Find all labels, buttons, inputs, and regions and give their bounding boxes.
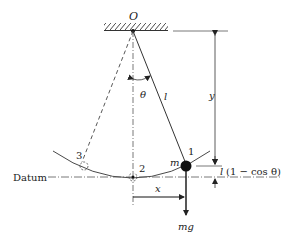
x-label: x <box>155 183 161 194</box>
length-label: l <box>164 91 167 102</box>
ceiling-support <box>104 23 168 31</box>
mass-label: m <box>170 157 179 168</box>
datum-label: Datum <box>13 172 47 183</box>
pendulum-rod-position-3 <box>82 31 133 162</box>
weight-label: mg <box>178 221 194 232</box>
drop-expression-label: (1 − cos θ) <box>226 166 281 177</box>
position-2-label: 2 <box>139 163 145 174</box>
pendulum-diagram: O θ l Datum 3 2 m 1 mg x y l (1 − cos θ) <box>0 0 289 236</box>
drop-length-label: l <box>220 166 223 177</box>
position-3-label: 3 <box>76 150 82 161</box>
position-1-label: 1 <box>188 146 194 157</box>
angle-arc <box>133 76 150 80</box>
y-label: y <box>208 90 215 101</box>
pivot-label: O <box>129 10 138 23</box>
position-2-dot <box>132 176 135 179</box>
angle-label: θ <box>140 89 146 100</box>
